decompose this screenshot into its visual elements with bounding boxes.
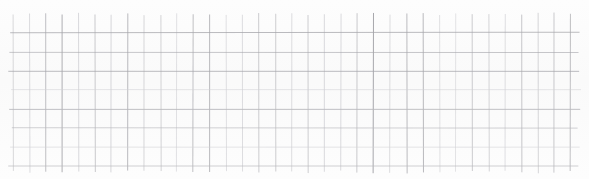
grid-paper-canvas (0, 0, 589, 179)
grid-svg (0, 0, 589, 179)
grid-layer (0, 0, 589, 179)
